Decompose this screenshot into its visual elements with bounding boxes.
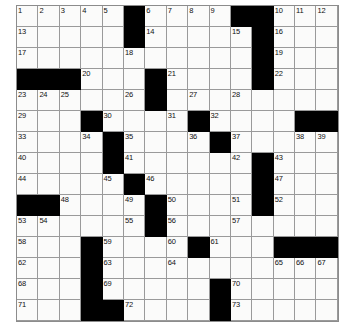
grid-cell-open[interactable]: 4 [81, 6, 102, 27]
grid-cell-open[interactable]: 42 [231, 153, 252, 174]
grid-cell-open[interactable] [124, 69, 145, 90]
grid-cell-open[interactable] [188, 216, 209, 237]
grid-cell-open[interactable] [60, 27, 81, 48]
grid-cell-open[interactable] [38, 111, 59, 132]
grid-cell-open[interactable]: 18 [124, 48, 145, 69]
grid-cell-open[interactable] [231, 174, 252, 195]
grid-cell-open[interactable]: 3 [60, 6, 81, 27]
grid-cell-open[interactable]: 52 [274, 195, 295, 216]
grid-cell-open[interactable] [60, 216, 81, 237]
grid-cell-open[interactable] [103, 216, 124, 237]
grid-cell-open[interactable] [210, 27, 231, 48]
grid-cell-open[interactable] [145, 132, 166, 153]
grid-cell-open[interactable] [231, 258, 252, 279]
grid-cell-open[interactable] [124, 258, 145, 279]
grid-cell-open[interactable]: 39 [316, 132, 337, 153]
grid-cell-open[interactable] [145, 48, 166, 69]
grid-cell-open[interactable] [316, 27, 337, 48]
grid-cell-open[interactable] [210, 48, 231, 69]
grid-cell-open[interactable] [145, 111, 166, 132]
grid-cell-open[interactable]: 29 [17, 111, 38, 132]
grid-cell-open[interactable] [81, 216, 102, 237]
crossword-grid[interactable]: 1234567891011121314151617181920212223242… [16, 5, 339, 322]
grid-cell-open[interactable]: 27 [188, 90, 209, 111]
grid-cell-open[interactable] [316, 279, 337, 300]
grid-cell-open[interactable] [274, 300, 295, 321]
grid-cell-open[interactable] [188, 174, 209, 195]
grid-cell-open[interactable]: 6 [145, 6, 166, 27]
grid-cell-open[interactable] [81, 195, 102, 216]
grid-cell-open[interactable]: 28 [231, 90, 252, 111]
grid-cell-open[interactable] [231, 237, 252, 258]
grid-cell-open[interactable] [38, 132, 59, 153]
grid-cell-open[interactable] [231, 111, 252, 132]
grid-cell-open[interactable] [167, 174, 188, 195]
grid-cell-open[interactable] [81, 174, 102, 195]
grid-cell-open[interactable]: 7 [167, 6, 188, 27]
grid-cell-open[interactable] [210, 174, 231, 195]
grid-cell-open[interactable]: 22 [274, 69, 295, 90]
grid-cell-open[interactable]: 5 [103, 6, 124, 27]
grid-cell-open[interactable]: 12 [316, 6, 337, 27]
grid-cell-open[interactable] [295, 48, 316, 69]
grid-cell-open[interactable] [210, 153, 231, 174]
grid-cell-open[interactable] [60, 111, 81, 132]
grid-cell-open[interactable]: 34 [81, 132, 102, 153]
grid-cell-open[interactable] [145, 237, 166, 258]
grid-cell-open[interactable] [103, 195, 124, 216]
grid-cell-open[interactable] [81, 27, 102, 48]
grid-cell-open[interactable] [103, 90, 124, 111]
grid-cell-open[interactable]: 21 [167, 69, 188, 90]
grid-cell-open[interactable]: 38 [295, 132, 316, 153]
grid-cell-open[interactable]: 73 [231, 300, 252, 321]
grid-cell-open[interactable] [38, 27, 59, 48]
grid-cell-open[interactable] [295, 27, 316, 48]
grid-cell-open[interactable] [145, 279, 166, 300]
grid-cell-open[interactable] [167, 27, 188, 48]
grid-cell-open[interactable]: 16 [274, 27, 295, 48]
grid-cell-open[interactable] [316, 153, 337, 174]
grid-cell-open[interactable] [210, 69, 231, 90]
grid-cell-open[interactable] [145, 258, 166, 279]
grid-cell-open[interactable] [60, 132, 81, 153]
grid-cell-open[interactable] [167, 48, 188, 69]
grid-cell-open[interactable] [231, 48, 252, 69]
grid-cell-open[interactable] [295, 174, 316, 195]
grid-cell-open[interactable]: 48 [60, 195, 81, 216]
grid-cell-open[interactable]: 69 [103, 279, 124, 300]
grid-cell-open[interactable] [60, 237, 81, 258]
grid-cell-open[interactable] [210, 258, 231, 279]
grid-cell-open[interactable] [231, 69, 252, 90]
grid-cell-open[interactable]: 59 [103, 237, 124, 258]
grid-cell-open[interactable] [188, 300, 209, 321]
grid-cell-open[interactable]: 9 [210, 6, 231, 27]
grid-cell-open[interactable] [274, 279, 295, 300]
grid-cell-open[interactable] [295, 300, 316, 321]
grid-cell-open[interactable] [60, 279, 81, 300]
grid-cell-open[interactable]: 41 [124, 153, 145, 174]
grid-cell-open[interactable]: 32 [210, 111, 231, 132]
grid-cell-open[interactable]: 61 [210, 237, 231, 258]
grid-cell-open[interactable]: 44 [17, 174, 38, 195]
grid-cell-open[interactable] [252, 300, 273, 321]
grid-cell-open[interactable]: 56 [167, 216, 188, 237]
grid-cell-open[interactable] [252, 279, 273, 300]
grid-cell-open[interactable] [188, 258, 209, 279]
grid-cell-open[interactable]: 64 [167, 258, 188, 279]
grid-cell-open[interactable] [188, 27, 209, 48]
grid-cell-open[interactable] [124, 111, 145, 132]
grid-cell-open[interactable]: 68 [17, 279, 38, 300]
grid-cell-open[interactable] [210, 195, 231, 216]
grid-cell-open[interactable] [295, 216, 316, 237]
grid-cell-open[interactable] [252, 90, 273, 111]
grid-cell-open[interactable]: 65 [274, 258, 295, 279]
grid-cell-open[interactable] [188, 279, 209, 300]
grid-cell-open[interactable]: 19 [274, 48, 295, 69]
grid-cell-open[interactable]: 23 [17, 90, 38, 111]
grid-cell-open[interactable] [316, 174, 337, 195]
grid-cell-open[interactable] [167, 300, 188, 321]
grid-cell-open[interactable]: 53 [17, 216, 38, 237]
grid-cell-open[interactable] [274, 111, 295, 132]
grid-cell-open[interactable]: 17 [17, 48, 38, 69]
grid-cell-open[interactable]: 14 [145, 27, 166, 48]
